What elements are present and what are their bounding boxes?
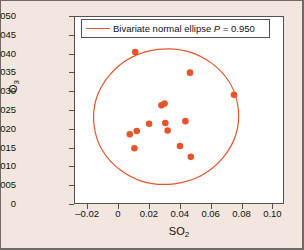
ellipse-outline <box>86 41 247 193</box>
x-axis-label: SO2 <box>74 225 284 239</box>
y-axis-label-text: O <box>7 84 19 93</box>
legend-label-suffix: = 0.950 <box>220 23 255 34</box>
data-point <box>164 127 171 134</box>
data-point <box>177 143 184 150</box>
legend-box: Bivariate normal ellipse P = 0.950 <box>81 19 270 38</box>
scatter-plot-svg <box>75 17 285 205</box>
data-point <box>188 154 195 161</box>
data-point <box>231 92 238 99</box>
data-point <box>182 118 189 125</box>
x-axis-label-text: SO <box>169 225 185 237</box>
y-tick-label: 0.025 <box>0 105 16 115</box>
plot-area <box>74 16 284 204</box>
y-axis-label-subscript: 3 <box>12 80 21 84</box>
y-tick-label: 0.015 <box>0 143 16 153</box>
data-points-group <box>127 49 238 161</box>
x-tick-label: 0.10 <box>248 209 296 219</box>
y-tick-label: 0 <box>0 199 16 209</box>
y-tick-label: 0.035 <box>0 67 16 77</box>
legend-entry-label: Bivariate normal ellipse P = 0.950 <box>113 23 255 34</box>
y-tick-label: 0.005 <box>0 180 16 190</box>
data-point <box>133 128 140 135</box>
legend-line-swatch <box>86 28 110 29</box>
y-tick-mark <box>69 204 74 205</box>
data-point <box>146 120 153 127</box>
y-tick-label: 0.045 <box>0 30 16 40</box>
bivariate-normal-ellipse <box>86 41 247 193</box>
figure-container: 00.0050.0100.0150.0200.0250.0300.0350.04… <box>0 0 304 250</box>
x-axis-label-subscript: 2 <box>185 230 189 239</box>
legend-label-prefix: Bivariate normal ellipse <box>113 23 214 34</box>
data-point <box>162 120 169 127</box>
y-tick-label: 0.050 <box>0 11 16 21</box>
data-point <box>131 145 138 152</box>
data-point <box>132 49 139 56</box>
y-tick-label: 0.040 <box>0 49 16 59</box>
y-axis-label: O3 <box>7 80 21 93</box>
data-point <box>187 69 194 76</box>
data-point <box>127 131 134 138</box>
y-tick-label: 0.020 <box>0 124 16 134</box>
data-point <box>161 100 168 107</box>
y-tick-label: 0.010 <box>0 161 16 171</box>
